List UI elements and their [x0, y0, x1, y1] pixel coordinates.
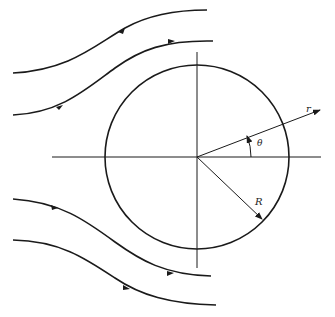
- theta-arc-icon: [247, 136, 251, 157]
- diagram-canvas: r θ R: [0, 0, 335, 317]
- flow-diagram: [0, 0, 335, 317]
- theta-label: θ: [257, 138, 262, 148]
- radius-label: R: [255, 196, 263, 207]
- streamline-3: [13, 199, 211, 276]
- streamline-1: [13, 10, 207, 73]
- radius-arrow: [197, 157, 262, 219]
- r-label: r: [306, 103, 311, 114]
- r-ray-arrow: [197, 110, 320, 157]
- streamline-4: [13, 240, 216, 305]
- streamline-2: [13, 41, 213, 115]
